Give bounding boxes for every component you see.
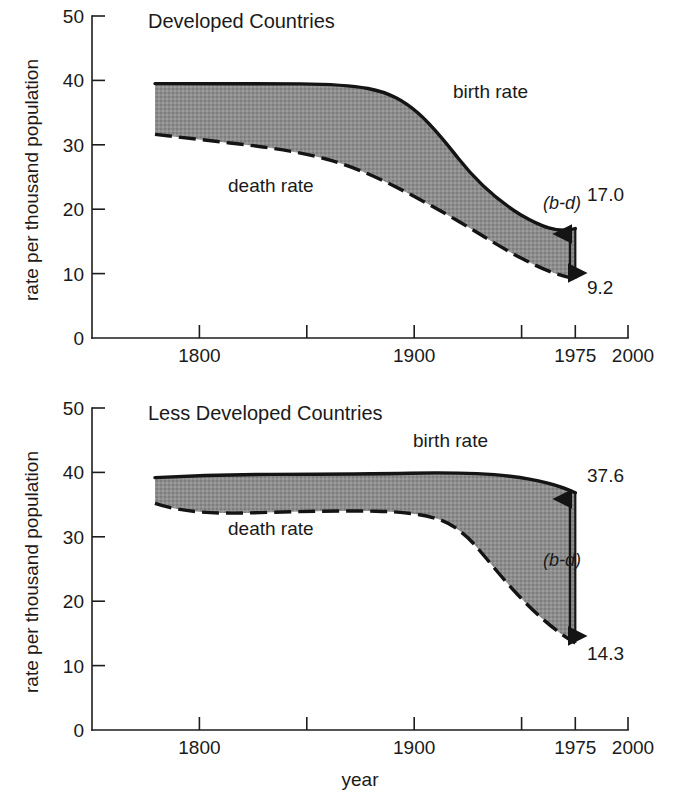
death-rate-label-less-developed: death rate [228,518,314,539]
birth-rate-label-less-developed: birth rate [413,430,488,451]
y-ticklabel-40-top: 40 [63,70,84,91]
x-ticklabel-1975-bottom: 1975 [554,737,596,758]
y-ticklabel-20-bottom: 20 [63,591,84,612]
chart-svg: rate per thousand population 50 40 30 20… [0,0,681,801]
gap-label-developed: (b-d) [543,193,581,213]
x-ticklabel-1800-top: 1800 [178,345,220,366]
panel-title-developed: Developed Countries [148,10,335,32]
birth-end-value-developed: 17.0 [587,184,624,205]
birth-end-value-less-developed: 37.6 [587,465,624,486]
death-end-value-developed: 9.2 [587,277,613,298]
death-rate-label-developed: death rate [228,175,314,196]
y-ticklabel-10-top: 10 [63,264,84,285]
y-axis-label-top: rate per thousand population [21,59,42,301]
y-ticklabel-10-bottom: 10 [63,656,84,677]
x-ticklabel-2000-top: 2000 [612,345,654,366]
death-end-value-less-developed: 14.3 [587,643,624,664]
y-ticklabel-20-top: 20 [63,199,84,220]
x-ticklabel-1900-top: 1900 [393,345,435,366]
x-ticklabel-1975-top: 1975 [554,345,596,366]
panel-title-less-developed: Less Developed Countries [148,402,383,424]
y-ticklabel-0-bottom: 0 [73,720,84,741]
y-ticklabel-50-top: 50 [63,6,84,27]
gap-label-less-developed: (b-d) [543,550,581,570]
x-ticklabel-1900-bottom: 1900 [393,737,435,758]
x-axis-label: year [342,769,380,790]
x-ticklabel-1800-bottom: 1800 [178,737,220,758]
y-ticklabel-40-bottom: 40 [63,462,84,483]
y-ticklabel-30-bottom: 30 [63,527,84,548]
birth-rate-label-developed: birth rate [453,81,528,102]
demographic-transition-figure: rate per thousand population 50 40 30 20… [0,0,681,801]
y-ticklabel-0-top: 0 [73,328,84,349]
y-ticklabel-50-bottom: 50 [63,398,84,419]
y-axis-label-bottom: rate per thousand population [21,451,42,693]
y-ticklabel-30-top: 30 [63,135,84,156]
x-ticklabel-2000-bottom: 2000 [612,737,654,758]
